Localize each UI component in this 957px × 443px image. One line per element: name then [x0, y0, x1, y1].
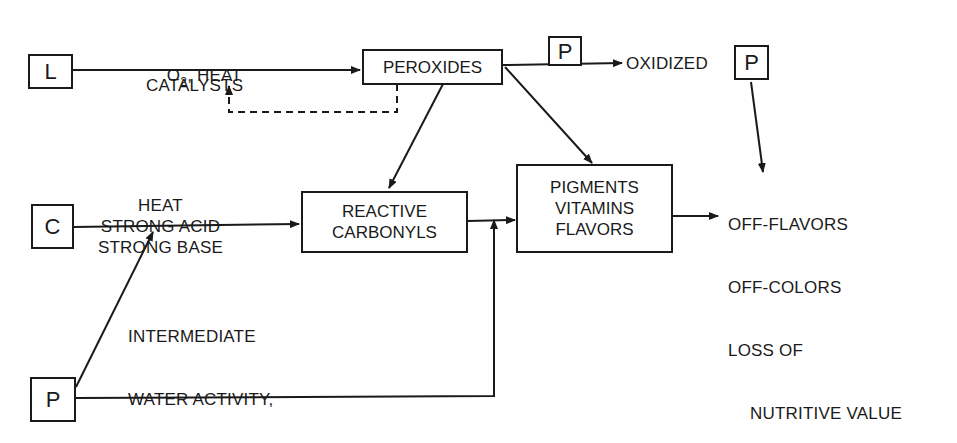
- node-p-bottom-label: P: [46, 389, 61, 410]
- edge-carbonyls-pigments: [468, 220, 515, 221]
- label-oxidized: OXIDIZED: [626, 53, 708, 74]
- node-reactive-carbonyls: REACTIVE CARBONYLS: [301, 191, 468, 253]
- node-p-top-label: P: [558, 41, 573, 62]
- node-c: C: [31, 204, 74, 249]
- outcome-off-flavors: OFF-FLAVORS: [728, 214, 902, 235]
- edge-peroxides-pigments: [505, 67, 592, 163]
- p-cond-2: WATER ACTIVITY,: [128, 389, 326, 410]
- node-p-oxidized: P: [734, 45, 769, 80]
- node-c-label: C: [45, 216, 61, 237]
- node-l: L: [28, 54, 73, 89]
- outcome-off-colors: OFF-COLORS: [728, 277, 902, 298]
- c-cond-3: STRONG BASE: [98, 237, 223, 258]
- pigments-line-1: PIGMENTS: [550, 177, 639, 198]
- node-p-oxidized-label: P: [744, 52, 759, 73]
- outcome-loss-of-1: LOSS OF: [728, 340, 902, 361]
- node-p-bottom: P: [30, 377, 76, 422]
- pigments-line-2: VITAMINS: [555, 198, 634, 219]
- node-p-top: P: [548, 36, 582, 66]
- p-cond-1: INTERMEDIATE: [128, 326, 326, 347]
- edge-peroxides-catalysts-dashed: [229, 84, 397, 112]
- node-pigments: PIGMENTS VITAMINS FLAVORS: [516, 164, 673, 253]
- node-peroxides-label: PEROXIDES: [383, 57, 482, 78]
- label-catalysts: CATALYSTS: [146, 75, 243, 96]
- label-outcomes: OFF-FLAVORS OFF-COLORS LOSS OF NUTRITIVE…: [728, 172, 902, 443]
- label-c-conditions: HEAT STRONG ACID STRONG BASE: [98, 153, 223, 279]
- c-cond-1: HEAT: [138, 195, 183, 216]
- label-p-conditions: INTERMEDIATE WATER ACTIVITY, AMBIENT TO …: [128, 284, 326, 443]
- c-cond-2: STRONG ACID: [101, 216, 220, 237]
- node-peroxides: PEROXIDES: [362, 49, 503, 85]
- outcome-nutritive-value: NUTRITIVE VALUE: [728, 403, 902, 424]
- edge-oxidizedp-outcomes: [751, 82, 763, 172]
- node-l-label: L: [44, 61, 56, 82]
- pigments-line-3: FLAVORS: [555, 219, 633, 240]
- carbonyls-line-1: REACTIVE: [342, 201, 427, 222]
- carbonyls-line-2: CARBONYLS: [332, 222, 437, 243]
